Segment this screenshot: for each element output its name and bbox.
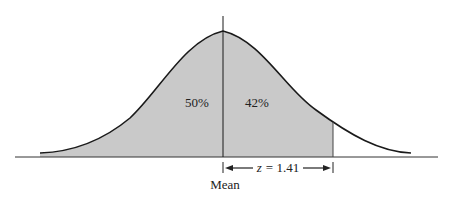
normal-curve-diagram: 50% 42% z= 1.41 Mean [0, 0, 454, 198]
arrow-left-head-icon [225, 165, 233, 171]
right-area-label: 42% [245, 95, 269, 110]
shaded-area [40, 31, 333, 157]
z-equals-value: = 1.41 [266, 160, 299, 175]
z-variable: z [256, 160, 262, 175]
arrow-right-head-icon [323, 165, 331, 171]
mean-label: Mean [210, 177, 240, 192]
left-area-label: 50% [185, 95, 209, 110]
z-value-label: z= 1.41 [256, 160, 299, 175]
